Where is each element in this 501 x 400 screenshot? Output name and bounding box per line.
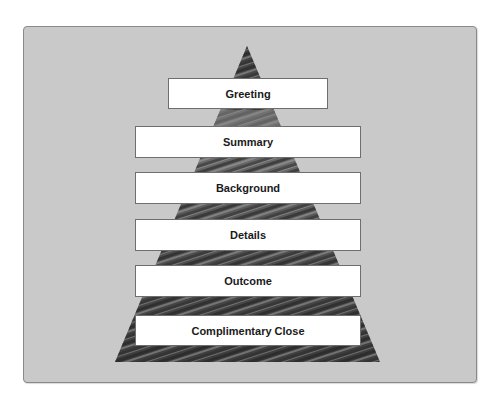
pyramid-level-details: Details [135,219,361,251]
pyramid-level-greeting: Greeting [168,78,328,109]
pyramid-level-outcome: Outcome [135,265,361,297]
pyramid-level-complimentary-close: Complimentary Close [135,315,361,346]
pyramid-level-background: Background [135,172,361,204]
level-label: Summary [223,136,273,148]
pyramid-level-summary: Summary [135,126,361,158]
level-label: Outcome [224,275,272,287]
level-label: Complimentary Close [191,325,304,337]
level-label: Greeting [225,88,270,100]
level-label: Background [216,182,280,194]
level-label: Details [230,229,266,241]
